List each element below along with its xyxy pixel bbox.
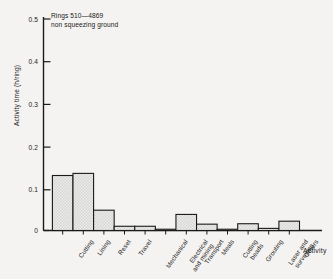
y-tick-label-0: 0: [16, 227, 38, 234]
y-tick-label-0.3: 0.3: [16, 101, 38, 108]
bar: [197, 224, 218, 230]
bar: [114, 226, 135, 230]
bar: [258, 228, 279, 230]
bar: [155, 229, 176, 230]
y-tick-label-0.2: 0.2: [16, 144, 38, 151]
bar: [217, 229, 238, 230]
bar: [238, 224, 259, 231]
bar-series: [52, 173, 299, 230]
y-tick-label-0.1: 0.1: [16, 186, 38, 193]
y-tick-label-0.4: 0.4: [16, 58, 38, 65]
bar: [52, 176, 73, 231]
bar-chart-plot: [0, 0, 333, 279]
y-tick-label-0.5: 0.5: [16, 16, 38, 23]
y-axis-title: Activity time (h/ring): [13, 36, 20, 156]
chart-annotation: Rings 510—4869 non squeezing ground: [51, 11, 118, 30]
annotation-line-1: Rings 510—4869: [51, 11, 118, 20]
y-axis-ticks: [44, 19, 51, 231]
bar: [135, 226, 156, 230]
bar: [279, 221, 300, 230]
annotation-line-2: non squeezing ground: [51, 20, 118, 29]
chart-figure: Activity time (h/ring) 0 0.1 0.2 0.3 0.4…: [0, 0, 333, 279]
bar: [73, 173, 94, 230]
bar: [176, 214, 197, 230]
bar: [94, 210, 115, 230]
x-axis-title: Activity: [303, 247, 327, 254]
